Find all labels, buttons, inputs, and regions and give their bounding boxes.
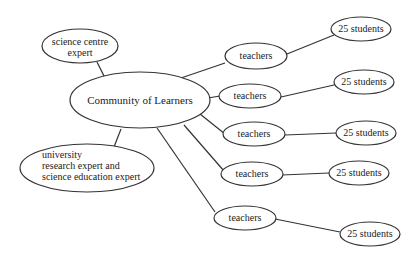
node-label: 25 students	[336, 167, 381, 178]
edge-t2-s2	[281, 85, 334, 97]
node-label: 25 students	[341, 76, 386, 87]
edge-col-t5	[157, 128, 215, 212]
node-science-centre-expert: science centre expert	[42, 29, 118, 63]
edge-t3-s3	[285, 133, 336, 135]
node-students-5: 25 students	[340, 222, 400, 246]
node-students-2: 25 students	[334, 70, 394, 94]
node-label: university	[42, 149, 82, 160]
node-label: teachers	[234, 90, 267, 101]
node-students-4: 25 students	[329, 161, 389, 185]
node-teachers-4: teachers	[221, 162, 283, 186]
node-label: teachers	[240, 50, 273, 61]
node-students-1: 25 students	[331, 17, 391, 41]
node-community-of-learners: Community of Learners	[70, 72, 210, 128]
node-label: research expert and	[42, 160, 120, 171]
node-label: 25 students	[343, 127, 388, 138]
node-label: science education expert	[42, 171, 141, 182]
node-teachers-3: teachers	[223, 122, 285, 146]
node-label: expert	[68, 47, 93, 58]
node-label: 25 students	[338, 23, 383, 34]
edges	[97, 35, 340, 232]
concept-map: science centre expert Community of Learn…	[0, 0, 418, 259]
node-university-experts: university research expert and science e…	[20, 144, 154, 192]
node-label: teachers	[236, 168, 269, 179]
edge-col-t4	[184, 125, 224, 171]
node-teachers-2: teachers	[219, 84, 281, 108]
node-students-3: 25 students	[336, 121, 396, 145]
edge-col-t3	[200, 114, 225, 134]
node-teachers-5: teachers	[214, 206, 276, 230]
edge-t5-s5	[275, 219, 340, 232]
node-label: teachers	[238, 128, 271, 139]
edge-t4-s4	[282, 173, 329, 175]
node-label: science centre	[52, 36, 109, 47]
node-label: Community of Learners	[87, 94, 193, 106]
edge-col-t1	[181, 63, 225, 78]
node-teachers-1: teachers	[225, 43, 287, 69]
edge-t1-s1	[282, 35, 334, 56]
edge-col-uni	[114, 129, 121, 147]
node-label: 25 students	[347, 228, 392, 239]
node-label: teachers	[229, 212, 262, 223]
